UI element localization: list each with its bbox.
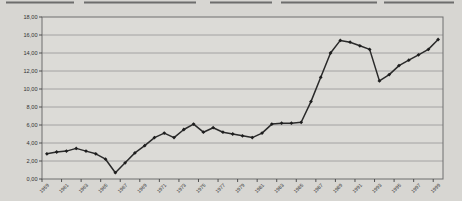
x-axis-tick-label: 1987 — [312, 182, 324, 194]
y-axis-tick-label: 6,00 — [27, 122, 38, 128]
y-axis-tick-label: 0,00 — [27, 176, 38, 182]
y-axis-tick-label: 18,00 — [24, 14, 38, 20]
chart-screen: 18,0016,0014,0012,0010,008,006,004,002,0… — [0, 0, 462, 201]
x-axis-tick-label: 1999 — [429, 182, 441, 194]
x-axis-tick-label: 1967 — [116, 182, 128, 194]
x-axis-tick-label: 1983 — [273, 182, 285, 194]
y-axis-tick-label: 2,00 — [27, 158, 38, 164]
x-axis-tick-label: 1979 — [234, 182, 246, 194]
x-axis-tick-label: 1969 — [136, 182, 148, 194]
plot-area — [42, 17, 443, 179]
x-axis-tick-label: 1963 — [77, 182, 89, 194]
y-axis-tick-label: 8,00 — [27, 104, 38, 110]
x-axis-tick-label: 1997 — [410, 182, 422, 194]
x-axis-tick-label: 1971 — [155, 182, 167, 194]
x-axis-tick-label: 1993 — [371, 182, 383, 194]
x-axis-tick-label: 1965 — [97, 182, 109, 194]
x-axis-tick-label: 1981 — [253, 182, 265, 194]
x-axis-tick-label: 1959 — [38, 182, 50, 194]
x-axis-tick-label: 1973 — [175, 182, 187, 194]
y-axis-tick-label: 14,00 — [24, 50, 38, 56]
x-axis-tick-label: 1985 — [292, 182, 304, 194]
y-axis-tick-label: 16,00 — [24, 32, 38, 38]
x-axis-tick-label: 1975 — [194, 182, 206, 194]
x-axis-tick-label: 1989 — [331, 182, 343, 194]
x-axis-tick-label: 1961 — [58, 182, 70, 194]
x-axis-tick-label: 1991 — [351, 182, 363, 194]
y-axis-tick-label: 10,00 — [24, 86, 38, 92]
x-axis-tick-label: 1995 — [390, 182, 402, 194]
y-axis-tick-label: 12,00 — [24, 68, 38, 74]
page: { "colors": { "page_bg": "#d7d6d2", "plo… — [0, 0, 462, 201]
y-axis-tick-label: 4,00 — [27, 140, 38, 146]
x-axis-tick-label: 1977 — [214, 182, 226, 194]
line-chart: 18,0016,0014,0012,0010,008,006,004,002,0… — [0, 0, 462, 201]
